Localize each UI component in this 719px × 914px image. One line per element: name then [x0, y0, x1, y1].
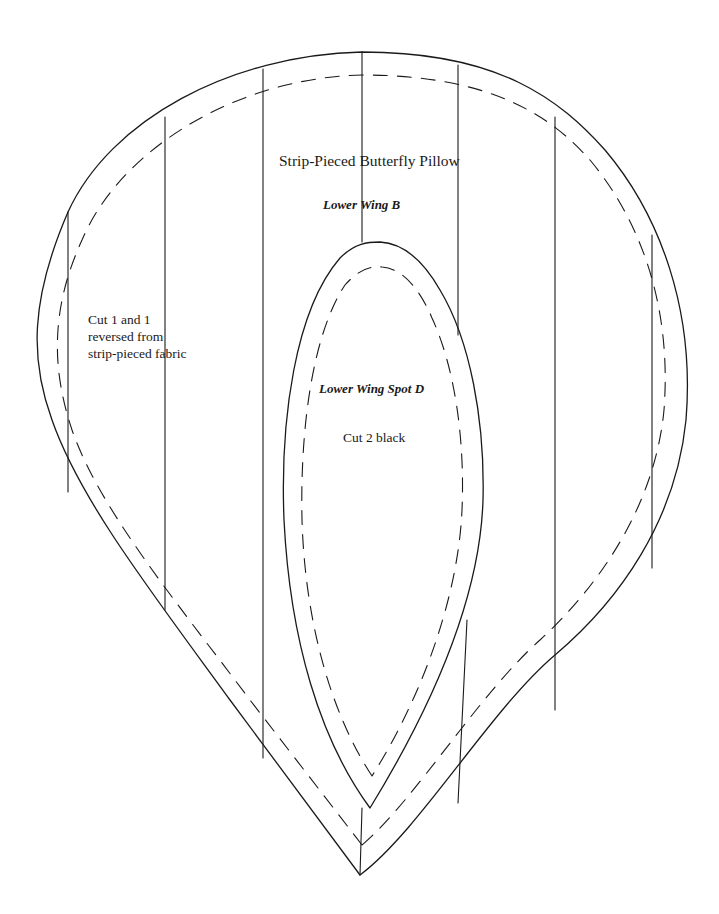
piece-b-instructions: Cut 1 and 1 reversed from strip-pieced f… [88, 311, 187, 362]
pattern-title: Strip-Pieced Butterfly Pillow [279, 152, 460, 170]
piece-b-name: Lower Wing B [323, 197, 400, 213]
lower-wing-spot-d-cutting-line [283, 242, 483, 808]
strip-line-5b [458, 620, 467, 803]
pattern-drawing [0, 0, 719, 914]
strip-line-4b [360, 808, 362, 875]
strip-seam-lines [68, 52, 652, 875]
piece-d-name: Lower Wing Spot D [319, 381, 424, 397]
piece-d-instructions: Cut 2 black [343, 429, 405, 446]
lower-wing-spot-d-seam-line [302, 267, 463, 776]
lower-wing-b-seam-line [57, 75, 665, 845]
